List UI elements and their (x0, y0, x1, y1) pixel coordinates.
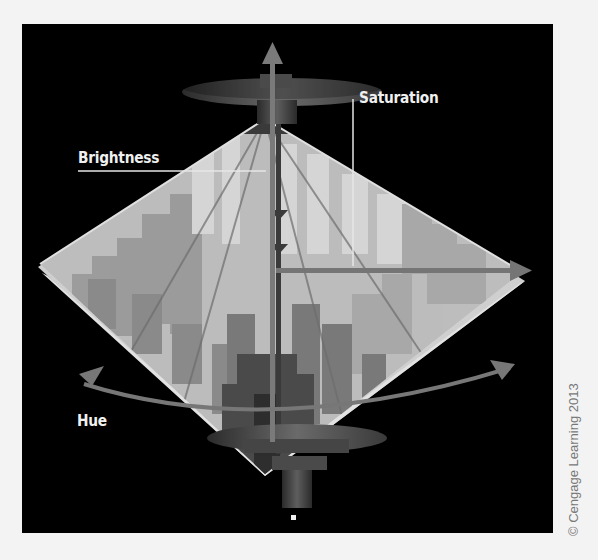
saturation-label: Saturation (359, 88, 439, 107)
hsb-double-cone-illustration (22, 24, 553, 533)
pivot-dot (291, 515, 296, 520)
copyright-credit: © Cengage Learning 2013 (566, 383, 581, 536)
brightness-label: Brightness (78, 148, 159, 167)
hue-label: Hue (77, 411, 107, 430)
bottom-collar (272, 456, 327, 470)
bottom-cylinder (282, 470, 312, 508)
center-shaft (276, 124, 281, 454)
diagram-panel: Saturation Brightness Hue (22, 24, 553, 533)
